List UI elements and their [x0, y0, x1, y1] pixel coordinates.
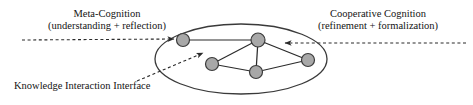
edge-bottomcenter-right: [256, 60, 308, 72]
node-right: [302, 54, 315, 67]
label-cooperative-cognition-line2: (refinement + formalization): [288, 20, 468, 32]
knowledge-interface-leader: [137, 53, 203, 81]
diagram-canvas: Meta-Cognition (understanding + reflecti…: [0, 0, 473, 105]
meta-cognition-arrow: [22, 39, 174, 40]
node-top-left: [177, 34, 190, 47]
node-bottom-center: [250, 66, 263, 79]
label-knowledge-interaction-interface: Knowledge Interaction Interface: [14, 80, 224, 92]
label-cooperative-cognition: Cooperative Cognition (refinement + form…: [288, 8, 468, 33]
edge-topcenter-right: [258, 40, 308, 60]
label-cooperative-cognition-line1: Cooperative Cognition: [288, 8, 468, 20]
label-knowledge-interaction-interface-line1: Knowledge Interaction Interface: [14, 80, 224, 92]
edge-topcenter-bottomleft: [212, 40, 258, 64]
label-meta-cognition: Meta-Cognition (understanding + reflecti…: [22, 8, 192, 33]
label-meta-cognition-line2: (understanding + reflection): [22, 20, 192, 32]
node-bottom-left: [206, 58, 219, 71]
label-meta-cognition-line1: Meta-Cognition: [22, 8, 192, 20]
node-top-center: [251, 33, 265, 47]
